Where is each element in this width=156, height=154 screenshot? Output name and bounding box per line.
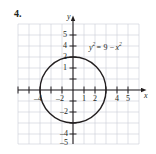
x-tick-label--2: –2 — [56, 95, 64, 103]
equation-minus: − — [110, 43, 115, 52]
y-tick-label-1: 1 — [63, 64, 67, 72]
equation-constant: 9 — [103, 43, 107, 52]
equation-rhs-exponent: 2 — [119, 41, 122, 47]
y-tick-label--5: –5 — [60, 139, 68, 147]
x-tick-label-1: 1 — [82, 95, 86, 103]
x-tick-label-5: 5 — [126, 95, 130, 103]
y-tick-label--2: –2 — [60, 108, 68, 116]
y-axis-label: y — [67, 13, 71, 21]
figure-container: 4. — [0, 0, 156, 154]
x-tick-label-2: 2 — [93, 95, 97, 103]
y-tick-label-2: 2 — [63, 53, 67, 61]
equation-equals: = — [97, 43, 102, 52]
equation-annotation: y2=9−x2 — [89, 44, 122, 52]
x-axis-label: x — [144, 92, 148, 100]
y-tick-label-4: 4 — [63, 42, 67, 50]
x-tick-label--4: –4 — [34, 95, 42, 103]
equation-lhs-exponent: 2 — [93, 41, 96, 47]
x-tick-label-4: 4 — [115, 95, 119, 103]
coordinate-plot — [0, 0, 156, 154]
y-tick-label--4: –4 — [60, 130, 68, 138]
y-tick-label-5: 5 — [63, 31, 67, 39]
